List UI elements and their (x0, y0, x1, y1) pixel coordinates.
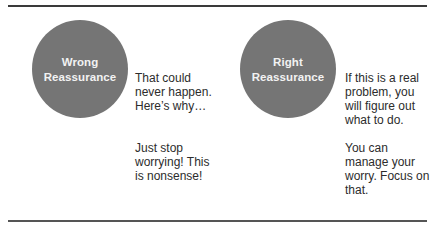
wrong-example-1: That could never happen. Here’s why… (135, 71, 220, 113)
right-label-line2: Reassurance (252, 71, 325, 83)
wrong-label-line1: Wrong (62, 56, 99, 68)
right-label-line1: Right (273, 56, 303, 68)
right-example-1: If this is a real problem, you will figu… (345, 71, 430, 127)
wrong-reassurance-circle: Wrong Reassurance (32, 20, 128, 118)
wrong-label-line2: Reassurance (44, 71, 117, 83)
wrong-reassurance-label: Wrong Reassurance (44, 55, 117, 85)
bottom-divider (8, 220, 427, 222)
right-reassurance-circle: Right Reassurance (240, 20, 336, 118)
right-example-2: You can manage your worry. Focus on that… (345, 141, 430, 197)
top-divider (8, 5, 427, 7)
right-reassurance-label: Right Reassurance (252, 55, 325, 85)
wrong-example-2: Just stop worrying! This is nonsense! (135, 141, 220, 183)
